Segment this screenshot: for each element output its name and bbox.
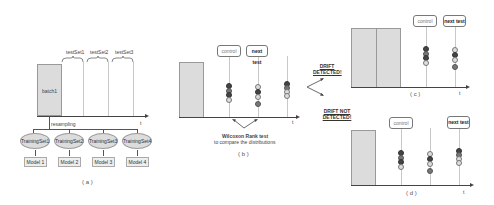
- model-1: Model 1: [24, 157, 47, 167]
- batch-block: [351, 28, 377, 88]
- testset-divider: [108, 62, 109, 117]
- axis-t-label: t: [459, 90, 460, 96]
- model-3: Model 3: [92, 157, 115, 167]
- resampling-label: resampling: [51, 121, 75, 127]
- control-box: control: [217, 45, 241, 57]
- model-2: Model 2: [58, 157, 81, 167]
- drift-detected-label: DRIFT DETECTED!: [313, 63, 341, 75]
- next-test-box: next test: [443, 15, 466, 27]
- data-point: [452, 57, 458, 63]
- testset-braces: [60, 56, 140, 64]
- model-4: Model 4: [126, 157, 149, 167]
- axis-t-label: t: [463, 189, 464, 195]
- data-point: [456, 160, 462, 166]
- testset-divider: [83, 62, 84, 117]
- arrow-down-icon: [69, 150, 70, 156]
- testset2-label: testSet2: [90, 49, 108, 55]
- data-point: [226, 97, 232, 103]
- data-point: [255, 94, 261, 100]
- wilcoxon-annotation-line2: to compare the distributions: [214, 139, 275, 145]
- arrow-down-icon: [137, 150, 138, 156]
- time-axis: [351, 87, 466, 88]
- comparison-arrows-icon: [230, 118, 260, 130]
- next-test-box: next test: [246, 45, 268, 57]
- training-set-4: TrainingSet4: [122, 133, 152, 149]
- axis-arrow-icon: [466, 85, 470, 89]
- arrow-down-icon: [103, 150, 104, 156]
- caption-c: ( c ): [410, 91, 420, 97]
- axis-t-label: t: [292, 119, 293, 125]
- caption-b: ( b ): [238, 151, 249, 157]
- branch-arrows-icon: [305, 75, 327, 99]
- control-box: control: [413, 15, 437, 27]
- caption-a: ( a ): [82, 179, 93, 185]
- resampling-stem: [49, 116, 50, 129]
- data-point: [255, 101, 261, 107]
- axis-arrow-icon: [470, 183, 474, 187]
- batch1-block: batch1: [37, 64, 62, 116]
- axis-t-label: t: [140, 120, 141, 126]
- time-axis: [37, 116, 145, 117]
- axis-arrow-icon: [296, 115, 300, 119]
- control-box: control: [389, 117, 413, 129]
- testset-divider: [133, 62, 134, 117]
- batch1-label: batch1: [42, 88, 57, 94]
- training-set-3: TrainingSet3: [88, 133, 118, 149]
- batch-block: [351, 130, 376, 186]
- caption-d: ( d ): [406, 190, 417, 196]
- resampling-branch-line: [33, 129, 137, 130]
- data-point: [398, 164, 404, 170]
- data-point: [427, 168, 433, 174]
- data-point: [423, 60, 429, 66]
- next-test-box: next test: [447, 116, 470, 129]
- data-point: [284, 93, 290, 99]
- training-set-2: TrainingSet2: [54, 133, 84, 149]
- training-set-1: TrainingSet1: [20, 133, 50, 149]
- arrow-down-icon: [35, 150, 36, 156]
- axis-arrow-icon: [145, 114, 149, 118]
- batch-block: [179, 62, 204, 118]
- data-point: [452, 64, 458, 70]
- batch-block: [376, 28, 401, 88]
- testset1-label: testSet1: [66, 49, 84, 55]
- time-axis: [351, 185, 470, 186]
- testset3-label: testSet3: [115, 49, 133, 55]
- data-point: [427, 161, 433, 167]
- drift-not-detected-label: DRIFT NOT DETECTED!: [319, 108, 355, 120]
